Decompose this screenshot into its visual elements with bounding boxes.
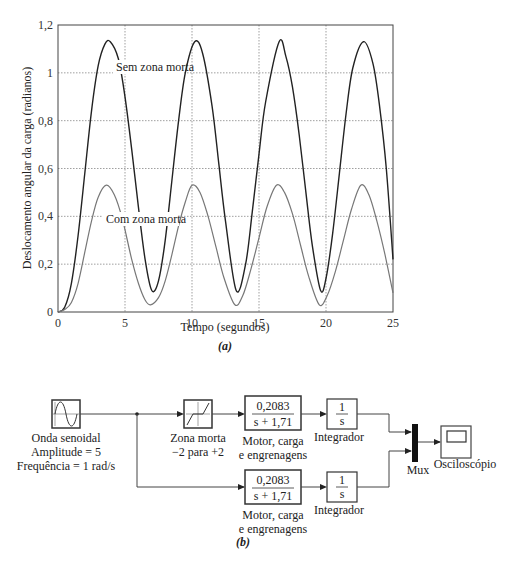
mux-label: Mux [407, 463, 430, 477]
block-diagram-panel-b: Onda senoidal Amplitude = 5 Frequência =… [17, 396, 497, 549]
tf-bottom-label-1: Motor, carga [242, 508, 304, 522]
y-tick-label: 1 [47, 66, 53, 80]
int-bottom-label: Integrador [314, 503, 364, 517]
x-axis-label: Tempo (segundos) [181, 320, 270, 334]
tf-top-label-2: e engrenagens [239, 448, 308, 462]
int-bottom-denominator: s [340, 487, 345, 501]
y-axis-ticks: 00,20,40,60,811,2 [38, 18, 53, 319]
tf-bottom-denominator: s + 1,71 [254, 489, 292, 503]
chart-panel-a: 00,20,40,60,811,2 0510152025 Sem zona mo… [20, 18, 399, 353]
x-tick-label: 0 [55, 316, 61, 330]
arrow-icon [320, 484, 327, 490]
sine-label-1: Onda senoidal [32, 431, 102, 445]
arrow-icon [177, 411, 184, 417]
x-tick-label: 20 [320, 316, 332, 330]
wire [357, 451, 411, 487]
caption-a: (a) [218, 339, 232, 353]
tf-top-denominator: s + 1,71 [254, 415, 292, 429]
series-sem-zona-morta [58, 40, 393, 312]
x-tick-label: 25 [387, 316, 399, 330]
arrow-icon [434, 439, 441, 445]
int-top-denominator: s [340, 414, 345, 428]
plot-frame [58, 25, 393, 312]
int-bottom-numerator: 1 [339, 473, 345, 487]
arrow-icon [238, 484, 245, 490]
arrow-icon [320, 411, 327, 417]
arrow-icon [238, 411, 245, 417]
transfer-function-bottom-block[interactable]: 0,2083 s + 1,71 [245, 470, 301, 504]
y-tick-label: 0,4 [38, 209, 53, 223]
tf-top-label-1: Motor, carga [242, 434, 304, 448]
dead-zone-label-2: −2 para +2 [172, 445, 224, 459]
sine-label-3: Frequência = 1 rad/s [17, 459, 116, 473]
sine-wave-block[interactable] [52, 400, 80, 428]
figure: 00,20,40,60,811,2 0510152025 Sem zona mo… [0, 0, 520, 570]
scope-screen-icon [447, 431, 466, 442]
tf-top-numerator: 0,2083 [257, 399, 290, 413]
sine-label-2: Amplitude = 5 [31, 445, 101, 459]
mux-block[interactable] [412, 424, 418, 462]
oscilloscope-block[interactable] [441, 426, 471, 458]
arrow-icon [405, 429, 412, 435]
scope-label: Osciloscópio [434, 457, 497, 471]
y-tick-label: 0,2 [38, 257, 53, 271]
y-tick-label: 0 [47, 305, 53, 319]
y-tick-label: 0,6 [38, 162, 53, 176]
series-com-zona-morta [58, 185, 393, 312]
int-top-label: Integrador [314, 430, 364, 444]
wire [357, 414, 411, 432]
annotation-sem-zona-morta: Sem zona morta [116, 60, 195, 74]
y-tick-label: 0,8 [38, 114, 53, 128]
caption-b: (b) [236, 535, 250, 549]
arrow-icon [405, 448, 412, 454]
tf-bottom-label-2: e engrenagens [239, 522, 308, 536]
dead-zone-label-1: Zona morta [170, 431, 226, 445]
annotation-com-zona-morta: Com zona morta [106, 212, 187, 226]
x-tick-label: 5 [122, 316, 128, 330]
transfer-function-top-block[interactable]: 0,2083 s + 1,71 [245, 396, 301, 430]
dead-zone-block[interactable] [184, 400, 212, 428]
integrator-top-block[interactable]: 1 s [327, 399, 357, 429]
integrator-bottom-block[interactable]: 1 s [327, 472, 357, 502]
y-tick-label: 1,2 [38, 18, 53, 32]
y-axis-label: Deslocamento angular da carga (radianos) [20, 67, 34, 269]
grid-lines [58, 25, 393, 312]
tf-bottom-numerator: 0,2083 [257, 473, 290, 487]
int-top-numerator: 1 [339, 400, 345, 414]
